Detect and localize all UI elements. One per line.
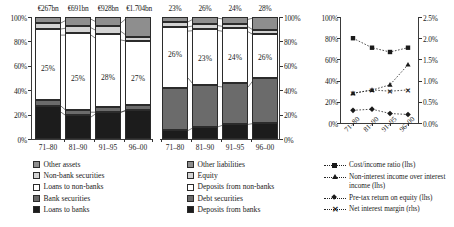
legend-label: Loans to banks	[44, 205, 90, 216]
liabilities-seg-deposits-from-banks[interactable]	[192, 127, 218, 139]
liabilities-tick-100	[280, 17, 283, 18]
liabilities-seg-debt-securities[interactable]	[162, 88, 188, 131]
liabilities-seg-deposits-from-non-banks[interactable]: 24%	[222, 28, 248, 83]
legend-label: Other assets	[44, 160, 81, 171]
assets-xlabel-1: 71–80	[32, 143, 64, 152]
liabilities-bar-91-95[interactable]: 24%	[222, 17, 248, 139]
assets-bar-96-00[interactable]: 27%	[125, 17, 151, 139]
liabilities-ytick-80: 80%	[284, 38, 297, 47]
assets-ytick-20: 20%	[0, 111, 27, 120]
diamond-marker-icon	[324, 194, 346, 203]
liabilities-seg-deposits-from-non-banks[interactable]: 26%	[252, 34, 278, 78]
legend-item-equity[interactable]: Equity	[187, 171, 274, 182]
equity-swatch-icon	[187, 172, 194, 179]
legend-item-loans-to-non-banks[interactable]: Loans to non-banks	[33, 182, 104, 193]
liabilities-seg-debt-securities[interactable]	[222, 83, 248, 124]
legend-item-net-interest-margin[interactable]: ✕ Net interest margin (rhs)	[324, 205, 453, 214]
ratios-ytick-left-60: 60%	[308, 56, 338, 65]
assets-seg-loans-to-banks[interactable]	[65, 115, 91, 139]
ratios-right-axis-line	[418, 17, 419, 123]
legend-item-non-interest-income[interactable]: Non-interest income over interest income…	[324, 173, 453, 192]
liabilities-ytick-40: 40%	[284, 87, 297, 96]
legend-label: Non-bank securities	[44, 171, 105, 182]
ratios-ytick-right-10: 1.0%	[423, 77, 438, 86]
assets-ytick-100: 100%	[0, 14, 27, 23]
legend-item-loans-to-banks[interactable]: Loans to banks	[33, 205, 104, 216]
assets-seg-loans-to-non-banks[interactable]: 27%	[125, 41, 151, 104]
assets-tick-80	[28, 41, 31, 42]
ratios-legend: Cost/income ratio (lhs) Non-interest inc…	[324, 161, 453, 217]
assets-seg-non-bank-securities[interactable]	[95, 26, 121, 35]
liabilities-seg-deposits-from-non-banks[interactable]: 23%	[192, 29, 218, 85]
legend-item-other-assets[interactable]: Other assets	[33, 160, 104, 171]
liabilities-bar-71-80[interactable]: 26%	[162, 17, 188, 139]
svg-text:✕: ✕	[350, 90, 356, 97]
liabilities-legend: Other liabilities Equity Deposits from n…	[187, 160, 274, 216]
ratios-right-tick-25	[419, 17, 422, 18]
liabilities-x-axis-line	[160, 139, 280, 140]
assets-seg-loans-to-banks[interactable]	[35, 106, 61, 139]
assets-bar-91-95[interactable]: 28%	[95, 17, 121, 139]
assets-seg-loans-to-non-banks[interactable]: 25%	[65, 33, 91, 110]
legend-item-non-bank-securities[interactable]: Non-bank securities	[33, 171, 104, 182]
assets-inner-label-4: 27%	[126, 74, 150, 83]
assets-seg-other-assets[interactable]	[125, 17, 151, 37]
assets-xtick-4	[152, 139, 153, 142]
assets-bar-71-80[interactable]: 25%	[35, 17, 61, 139]
ratios-left-tick-20	[337, 102, 340, 103]
legend-label: Cost/income ratio (lhs)	[349, 161, 415, 170]
liabilities-bar-96-00[interactable]: 26%	[252, 17, 278, 139]
loans-to-banks-swatch-icon	[33, 206, 40, 213]
liabilities-seg-deposits-from-banks[interactable]	[222, 124, 248, 139]
liabilities-bar-81-90[interactable]: 23%	[192, 17, 218, 139]
assets-stacked-bar-chart: 100% 80% 60% 40% 20% 0%	[0, 0, 160, 160]
liabilities-tick-20	[280, 115, 283, 116]
svg-text:✕: ✕	[405, 87, 411, 94]
legend-item-debt-securities[interactable]: Debt securities	[187, 194, 274, 205]
other-assets-swatch-icon	[33, 161, 40, 168]
liabilities-stacked-bar-chart: 100% 80% 60% 40% 20% 0%	[158, 0, 318, 160]
liabilities-xtick-3	[251, 139, 252, 142]
liabilities-seg-debt-securities[interactable]	[192, 85, 218, 126]
legend-label: Non-interest income over interest income…	[349, 173, 453, 192]
ratios-right-tick-05	[419, 102, 422, 103]
series-net-interest-margin: ✕ ✕ ✕ ✕	[350, 87, 411, 97]
assets-seg-loans-to-non-banks[interactable]: 28%	[95, 34, 121, 107]
legend-item-cost-income-ratio[interactable]: Cost/income ratio (lhs)	[324, 161, 453, 170]
legend-item-other-liabilities[interactable]: Other liabilities	[187, 160, 274, 171]
liabilities-inner-label-1: 26%	[163, 50, 187, 59]
svg-text:✕: ✕	[369, 87, 375, 94]
liabilities-tick-40	[280, 90, 283, 91]
liabilities-seg-deposits-from-banks[interactable]	[162, 130, 188, 139]
bank-securities-swatch-icon	[33, 195, 40, 202]
liabilities-seg-deposits-from-banks[interactable]	[252, 123, 278, 139]
ratios-left-tick-100	[337, 17, 340, 18]
liabilities-tick-60	[280, 66, 283, 67]
ratios-ytick-right-25: 2.5%	[423, 14, 438, 23]
liabilities-seg-debt-securities[interactable]	[252, 78, 278, 123]
debt-securities-swatch-icon	[187, 195, 194, 202]
assets-seg-other-assets[interactable]	[95, 17, 121, 26]
legend-item-bank-securities[interactable]: Bank securities	[33, 194, 104, 205]
assets-top-label-4: €1.704bn	[118, 4, 160, 13]
svg-text:✕: ✕	[387, 88, 393, 95]
legend-item-deposits-from-banks[interactable]: Deposits from banks	[187, 205, 274, 216]
liabilities-seg-deposits-from-non-banks[interactable]: 26%	[162, 27, 188, 88]
legend-label: Bank securities	[44, 194, 91, 205]
liabilities-seg-other-liabilities[interactable]	[222, 17, 248, 24]
figure-root: 100% 80% 60% 40% 20% 0%	[0, 0, 454, 227]
legend-item-pre-tax-return-on-equity[interactable]: Pre-tax return on equity (lhs)	[324, 194, 453, 203]
assets-seg-other-assets[interactable]	[65, 17, 91, 26]
liabilities-seg-other-liabilities[interactable]	[252, 17, 278, 30]
assets-seg-loans-to-banks[interactable]	[125, 110, 151, 139]
assets-seg-loans-to-banks[interactable]	[95, 112, 121, 139]
assets-bar-81-90[interactable]: 25%	[65, 17, 91, 139]
assets-ytick-0: 0%	[0, 136, 27, 145]
legend-item-deposits-from-non-banks[interactable]: Deposits from non-banks	[187, 182, 274, 193]
assets-seg-loans-to-non-banks[interactable]: 25%	[35, 29, 61, 100]
liabilities-seg-other-liabilities[interactable]	[192, 17, 218, 24]
ratios-left-tick-80	[337, 38, 340, 39]
liabilities-ytick-20: 20%	[284, 111, 297, 120]
x-marker-icon: ✕	[324, 205, 346, 214]
assets-seg-non-bank-securities[interactable]	[65, 26, 91, 33]
